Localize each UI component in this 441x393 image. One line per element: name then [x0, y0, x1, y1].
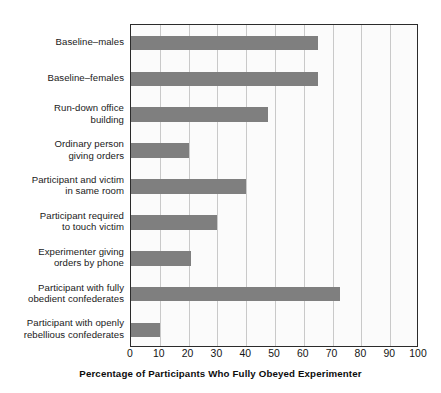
value-axis-ticks: 0102030405060708090100	[130, 348, 418, 364]
bar-chart: Baseline–malesBaseline–femalesRun-down o…	[0, 0, 441, 393]
x-tick-label: 20	[182, 348, 194, 359]
category-label: Experimenter giving orders by phone	[0, 246, 124, 269]
category-label: Run-down office building	[0, 102, 124, 125]
x-tick-label: 30	[211, 348, 223, 359]
x-axis-title: Percentage of Participants Who Fully Obe…	[0, 368, 441, 379]
bar	[131, 251, 191, 266]
category-label: Baseline–females	[0, 72, 124, 84]
category-label: Participant with fully obedient confeder…	[0, 282, 124, 305]
category-label: Baseline–males	[0, 36, 124, 48]
bar	[131, 143, 189, 158]
x-tick-label: 60	[297, 348, 309, 359]
x-tick-label: 80	[355, 348, 367, 359]
x-tick-label: 40	[239, 348, 251, 359]
bar	[131, 107, 268, 122]
category-label: Ordinary person giving orders	[0, 138, 124, 161]
x-tick-label: 0	[127, 348, 133, 359]
x-tick-label: 50	[268, 348, 280, 359]
bar	[131, 72, 318, 87]
bar	[131, 287, 340, 302]
x-tick-label: 100	[409, 348, 426, 359]
plot-area	[130, 24, 418, 347]
bar	[131, 36, 318, 51]
bar	[131, 323, 160, 338]
category-label: Participant with openly rebellious confe…	[0, 317, 124, 340]
bar	[131, 215, 217, 230]
category-axis-labels: Baseline–malesBaseline–femalesRun-down o…	[0, 24, 124, 347]
x-tick-label: 10	[153, 348, 165, 359]
bar	[131, 179, 246, 194]
x-tick-label: 70	[326, 348, 338, 359]
x-tick-label: 90	[383, 348, 395, 359]
category-label: Participant and victim in same room	[0, 174, 124, 197]
category-label: Participant required to touch victim	[0, 210, 124, 233]
bar-series	[131, 25, 417, 346]
